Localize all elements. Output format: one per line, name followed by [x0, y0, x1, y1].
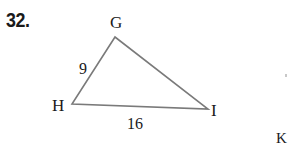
- side-label-hi: 16: [127, 116, 143, 132]
- vertex-label-h: H: [52, 97, 64, 114]
- triangle-ghi: [72, 37, 208, 109]
- vertex-label-g: G: [110, 14, 122, 31]
- vertex-label-i: I: [211, 102, 217, 119]
- cropped-vertex-label-k: K: [276, 131, 287, 146]
- cropped-figure-mark: [285, 74, 287, 77]
- side-label-gh: 9: [79, 61, 87, 77]
- textbook-page: 32. G H I 9 16 K: [0, 0, 288, 146]
- triangle-figure: [0, 0, 288, 146]
